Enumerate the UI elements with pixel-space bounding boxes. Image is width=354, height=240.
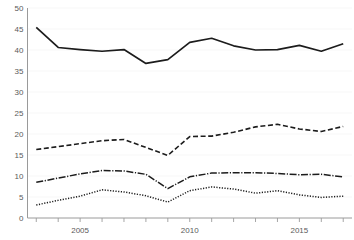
- series-line-4: [36, 187, 343, 205]
- y-tick-label: 0: [19, 214, 24, 223]
- y-tick-label: 50: [15, 4, 24, 13]
- y-tick-label: 40: [15, 46, 24, 55]
- y-tick-label: 25: [15, 109, 24, 118]
- y-tick-label: 45: [15, 25, 24, 34]
- y-tick-label: 10: [15, 172, 24, 181]
- y-axis-tick-labels: 05101520253035404550: [15, 4, 24, 223]
- x-tick-label: 2005: [71, 226, 89, 235]
- series-line-3: [36, 171, 343, 189]
- y-tick-label: 15: [15, 151, 24, 160]
- x-axis-tick-labels: 200520102015: [71, 226, 309, 235]
- y-tick-label: 35: [15, 67, 24, 76]
- y-tick-label: 5: [19, 193, 24, 202]
- line-chart: 05101520253035404550 200520102015: [0, 0, 354, 240]
- x-axis-tick-marks: [36, 218, 343, 222]
- series-line-2: [36, 124, 343, 155]
- x-tick-label: 2015: [290, 226, 308, 235]
- gridlines: [28, 8, 353, 197]
- data-series: [36, 27, 343, 205]
- series-line-1: [36, 27, 343, 63]
- y-tick-label: 20: [15, 130, 24, 139]
- chart-canvas: 05101520253035404550 200520102015: [0, 0, 354, 240]
- y-tick-label: 30: [15, 88, 24, 97]
- x-tick-label: 2010: [181, 226, 199, 235]
